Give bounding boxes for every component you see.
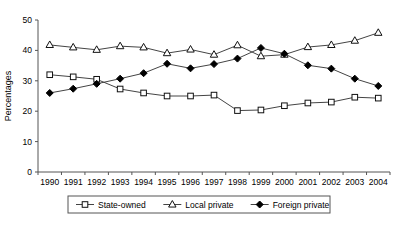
marker-open-square (141, 90, 147, 96)
marker-open-square (82, 202, 88, 208)
y-tick-group: 01020304050 (23, 15, 38, 177)
x-tick-label: 1997 (205, 177, 224, 187)
x-tick-label: 1998 (228, 177, 247, 187)
marker-filled-diamond (164, 60, 171, 67)
x-tick-label: 1990 (40, 177, 59, 187)
legend-label: Foreign private (273, 200, 330, 210)
marker-filled-diamond (46, 89, 53, 96)
x-tick-label: 2002 (322, 177, 341, 187)
x-tick-label: 2003 (345, 177, 364, 187)
marker-filled-diamond (351, 75, 358, 82)
x-tick-label: 1996 (181, 177, 200, 187)
marker-filled-diamond (328, 65, 335, 72)
marker-open-square (70, 74, 76, 80)
marker-open-square (329, 99, 335, 105)
x-tick-label: 1995 (158, 177, 177, 187)
y-tick-label: 20 (23, 106, 33, 116)
y-tick-label: 30 (23, 76, 33, 86)
marker-open-square (211, 92, 217, 98)
x-tick-label: 1992 (87, 177, 106, 187)
marker-open-square (282, 103, 288, 109)
x-tick-label: 1994 (134, 177, 153, 187)
marker-filled-diamond (140, 70, 147, 77)
legend-label: Local private (185, 200, 233, 210)
series-state-owned (47, 72, 381, 113)
marker-open-triangle (375, 29, 382, 36)
x-tick-label: 1999 (251, 177, 270, 187)
legend-label: State-owned (98, 200, 146, 210)
marker-open-square (352, 94, 358, 100)
marker-open-square (188, 93, 194, 99)
marker-open-square (305, 100, 311, 106)
marker-filled-diamond (117, 75, 124, 82)
x-tick-group: 1990199119921993199419951996199719981999… (38, 172, 390, 187)
y-tick-label: 0 (27, 167, 32, 177)
series-local-private (46, 29, 382, 59)
marker-open-square (375, 95, 381, 101)
marker-filled-diamond (70, 85, 77, 92)
chart-figure: 01020304050Percentages199019911992199319… (0, 0, 396, 226)
marker-filled-diamond (234, 55, 241, 62)
marker-filled-diamond (187, 65, 194, 72)
marker-open-square (164, 93, 170, 99)
marker-open-triangle (234, 41, 241, 48)
marker-open-square (258, 107, 264, 113)
marker-open-square (47, 72, 53, 78)
y-tick-label: 40 (23, 45, 33, 55)
x-tick-label: 1993 (111, 177, 130, 187)
marker-open-triangle (187, 46, 194, 53)
marker-filled-diamond (375, 82, 382, 89)
line-chart: 01020304050Percentages199019911992199319… (0, 0, 396, 226)
y-tick-label: 50 (23, 15, 33, 25)
marker-filled-diamond (257, 44, 264, 51)
marker-open-square (235, 108, 241, 114)
x-tick-label: 2004 (369, 177, 388, 187)
x-tick-label: 2001 (298, 177, 317, 187)
marker-open-triangle (140, 43, 147, 50)
marker-filled-diamond (304, 62, 311, 69)
marker-open-triangle (46, 41, 53, 48)
chart-legend: State-ownedLocal privateForeign private (68, 196, 330, 213)
y-tick-label: 10 (23, 137, 33, 147)
y-axis-title: Percentages (3, 70, 13, 121)
marker-open-triangle (116, 42, 123, 49)
x-tick-label: 2000 (275, 177, 294, 187)
marker-filled-diamond (211, 61, 218, 68)
x-tick-label: 1991 (64, 177, 83, 187)
marker-open-square (117, 86, 123, 92)
